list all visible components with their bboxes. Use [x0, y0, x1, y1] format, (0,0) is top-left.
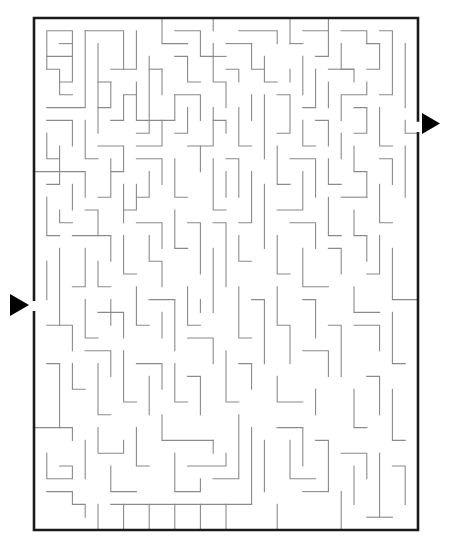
maze-wall	[34, 428, 72, 441]
maze-wall	[328, 197, 341, 235]
maze-wall	[124, 82, 137, 95]
maze-wall	[175, 108, 188, 134]
maze-wall	[277, 376, 303, 402]
maze-wall	[175, 364, 188, 402]
maze-wall	[405, 120, 418, 133]
maze-wall	[328, 159, 341, 185]
maze-wall	[341, 82, 367, 120]
maze-wall	[303, 300, 316, 338]
maze-wall	[47, 120, 73, 146]
maze-wall	[98, 159, 111, 197]
maze-wall	[354, 287, 380, 313]
maze-wall	[188, 223, 201, 274]
maze-wall	[136, 172, 149, 198]
maze-wall	[213, 159, 226, 210]
maze-wall	[380, 108, 393, 146]
maze-wall	[316, 120, 329, 146]
maze-wall	[354, 146, 367, 197]
maze-wall	[264, 56, 277, 82]
maze-wall	[85, 210, 98, 236]
maze-wall	[85, 120, 98, 158]
maze-board	[0, 0, 458, 549]
maze-wall	[136, 95, 174, 121]
maze-wall	[239, 108, 252, 146]
maze-wall	[47, 197, 60, 235]
maze-wall	[60, 210, 73, 223]
maze-wall	[392, 248, 418, 299]
maze-wall	[188, 453, 226, 466]
maze-wall	[239, 287, 252, 338]
maze-wall	[98, 261, 111, 287]
maze-wall	[213, 415, 239, 479]
maze-wall	[303, 69, 316, 107]
maze-wall	[98, 82, 111, 108]
maze-wall	[111, 95, 124, 121]
maze-wall	[188, 287, 201, 325]
maze-wall	[277, 287, 290, 364]
maze-wall	[47, 364, 60, 428]
maze-wall	[303, 31, 329, 57]
maze-wall	[200, 108, 213, 146]
maze-wall	[188, 146, 201, 172]
maze-wall	[239, 364, 252, 390]
maze-wall	[328, 325, 341, 376]
maze-wall	[226, 69, 239, 82]
maze-wall	[124, 184, 137, 210]
exit-arrow-icon	[422, 113, 440, 134]
maze-wall	[124, 236, 137, 274]
maze-wall	[188, 376, 201, 414]
maze-wall	[226, 351, 239, 402]
maze-wall	[252, 44, 265, 70]
maze-wall	[72, 236, 110, 262]
maze-wall	[354, 108, 367, 134]
maze-wall	[328, 248, 341, 274]
maze-wall	[290, 223, 316, 249]
maze-wall	[380, 184, 393, 222]
maze-wall	[380, 159, 393, 185]
maze-wall	[303, 120, 316, 146]
maze-wall	[175, 159, 188, 197]
maze-wall	[277, 236, 290, 274]
maze-wall	[136, 287, 149, 325]
maze-wall	[175, 210, 188, 248]
maze-wall	[277, 95, 290, 133]
maze-wall	[380, 31, 393, 95]
maze-wall	[175, 56, 201, 82]
maze-wall	[354, 325, 380, 351]
maze-wall	[85, 300, 98, 338]
maze-wall	[149, 236, 162, 287]
maze-wall	[60, 56, 73, 82]
maze-wall	[47, 133, 60, 159]
maze-wall	[277, 146, 290, 184]
maze-wall	[162, 415, 213, 441]
maze-wall	[316, 440, 329, 491]
maze-wall	[354, 210, 367, 261]
entrance-arrow-icon	[10, 294, 29, 316]
maze-wall	[226, 159, 239, 197]
maze-wall	[392, 466, 405, 504]
maze-wall	[47, 146, 60, 184]
maze-wall	[367, 236, 380, 274]
maze-wall	[47, 492, 85, 518]
maze-wall	[188, 338, 214, 364]
maze-wall	[175, 453, 201, 491]
maze-wall	[239, 236, 252, 262]
maze-wall	[124, 351, 137, 402]
maze-wall	[98, 364, 111, 415]
maze-wall	[252, 300, 265, 364]
maze-walls	[34, 18, 418, 530]
maze-wall	[72, 248, 85, 286]
maze-wall	[98, 428, 124, 454]
maze-wall	[136, 428, 149, 466]
maze-wall	[341, 44, 354, 82]
maze-wall	[341, 31, 367, 44]
maze-wall	[392, 312, 405, 363]
maze-wall	[367, 376, 380, 414]
maze-wall	[85, 31, 123, 69]
maze-wall	[303, 351, 329, 377]
maze-wall	[136, 56, 149, 133]
maze-wall	[277, 172, 303, 210]
maze-wall	[47, 453, 73, 479]
maze-wall	[213, 223, 226, 287]
maze-wall	[239, 172, 252, 223]
